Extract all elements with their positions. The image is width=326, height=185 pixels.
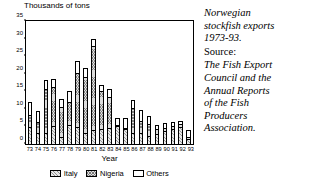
bar-column xyxy=(155,21,160,144)
bar-segment-nigeria xyxy=(67,102,72,125)
bar-segment-others xyxy=(186,130,191,137)
y-tick-label: 30 xyxy=(16,30,23,36)
bar-segment-others xyxy=(59,99,64,107)
legend-swatch-nigeria xyxy=(86,170,97,177)
bar-segment-nigeria xyxy=(139,121,144,134)
bar-segment-italy xyxy=(59,137,64,144)
bar-segment-italy xyxy=(67,125,72,144)
bar-segment-nigeria xyxy=(36,122,41,133)
bar-column xyxy=(44,21,49,144)
y-axis-title: Thousands of tons xyxy=(24,1,90,10)
bar-segment-others xyxy=(83,68,88,77)
y-tick-label: 35 xyxy=(16,12,23,18)
caption-source-label: Source: xyxy=(204,46,324,59)
bar-segment-others xyxy=(115,118,120,125)
caption-source-line-5: Producers xyxy=(204,110,324,123)
bar-segment-italy xyxy=(178,127,183,144)
bar-column xyxy=(36,21,41,144)
caption-source-line-4: of the Fish xyxy=(204,97,324,110)
bar-column xyxy=(163,21,168,144)
bar-segment-italy xyxy=(139,133,144,144)
y-tick-label: 20 xyxy=(16,65,23,71)
y-tick-label: 10 xyxy=(16,100,23,106)
bar-segment-italy xyxy=(171,129,176,144)
caption-line-3: 1973-93. xyxy=(204,32,324,45)
x-axis-title: Year xyxy=(25,154,194,163)
bar-segment-nigeria xyxy=(83,77,88,133)
bar-segment-nigeria xyxy=(91,46,96,130)
bar-segment-italy xyxy=(107,128,112,144)
bar-segment-others xyxy=(91,39,96,46)
y-tick-label: 15 xyxy=(16,82,23,88)
y-tick-label: 0 xyxy=(20,135,23,141)
plot-inner: 05101520253035 xyxy=(26,21,193,144)
bar-column xyxy=(147,21,152,144)
bar-column xyxy=(75,21,80,144)
bar-segment-nigeria xyxy=(51,87,56,126)
bar-segment-italy xyxy=(147,136,152,144)
bar-segment-italy xyxy=(75,127,80,144)
bar-segment-italy xyxy=(115,126,120,144)
bar-segment-others xyxy=(36,111,41,122)
legend-item: Nigeria xyxy=(86,169,123,178)
bar-column xyxy=(123,21,128,144)
bar-segment-others xyxy=(28,102,33,115)
figure-caption: Norwegian stockfish exports 1973-93. Sou… xyxy=(204,7,324,136)
bar-segment-italy xyxy=(36,133,41,144)
bar-segment-italy xyxy=(91,130,96,144)
bar-column xyxy=(171,21,176,144)
legend-swatch-others xyxy=(133,170,144,177)
bar-column xyxy=(91,21,96,144)
bar-segment-others xyxy=(131,100,136,108)
chart-screenshot: Thousands of tons 05101520253035 7374757… xyxy=(0,0,326,185)
bar-segment-others xyxy=(147,116,152,124)
bar-column xyxy=(131,21,136,144)
caption-title: Norwegian stockfish exports 1973-93. xyxy=(204,7,324,45)
caption-source-line-6: Association. xyxy=(204,122,324,135)
bar-segment-nigeria xyxy=(75,73,80,127)
plot-area: 05101520253035 xyxy=(25,20,194,145)
bar-segment-italy xyxy=(163,131,168,144)
bar-segment-italy xyxy=(83,133,88,144)
bar-group xyxy=(26,21,193,144)
caption-source: The Fish Export Council and the Annual R… xyxy=(204,59,324,135)
bar-segment-others xyxy=(123,118,128,128)
bar-column xyxy=(139,21,144,144)
bar-segment-nigeria xyxy=(59,107,64,137)
bar-column xyxy=(115,21,120,144)
bar-segment-nigeria xyxy=(131,108,136,133)
caption-line-2: stockfish exports xyxy=(204,20,324,33)
bar-segment-nigeria xyxy=(99,91,104,129)
bar-column xyxy=(67,21,72,144)
legend-item: Italy xyxy=(50,169,77,178)
bar-segment-nigeria xyxy=(107,97,112,128)
caption-line-1: Norwegian xyxy=(204,7,324,20)
bar-segment-italy xyxy=(51,126,56,144)
bar-column xyxy=(99,21,104,144)
caption-source-line-2: Council and the xyxy=(204,72,324,85)
bar-segment-others xyxy=(44,80,49,89)
bar-segment-italy xyxy=(123,129,128,144)
bar-column xyxy=(59,21,64,144)
bar-segment-italy xyxy=(186,139,191,144)
bar-segment-italy xyxy=(28,127,33,144)
bar-segment-italy xyxy=(44,133,49,144)
y-tick-label: 25 xyxy=(16,47,23,53)
bar-column xyxy=(186,21,191,144)
bar-segment-italy xyxy=(131,133,136,144)
bar-column xyxy=(28,21,33,144)
bar-column xyxy=(51,21,56,144)
stacked-bar-chart: Thousands of tons 05101520253035 7374757… xyxy=(0,0,198,185)
legend-item: Others xyxy=(133,169,169,178)
legend-label: Italy xyxy=(64,169,78,178)
bar-column xyxy=(83,21,88,144)
bar-segment-italy xyxy=(99,129,104,144)
y-tick-label: 5 xyxy=(20,117,23,123)
chart-legend: ItalyNigeriaOthers xyxy=(25,167,194,179)
bar-column xyxy=(107,21,112,144)
caption-source-line-1: The Fish Export xyxy=(204,59,324,72)
bar-segment-others xyxy=(75,61,80,73)
caption-source-line-3: Annual Reports xyxy=(204,85,324,98)
bar-segment-others xyxy=(107,89,112,97)
bar-segment-nigeria xyxy=(147,124,152,136)
